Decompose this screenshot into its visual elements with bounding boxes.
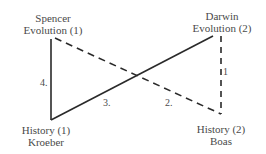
node-kroeber-name: Kroeber (16, 136, 76, 148)
node-kroeber: History (1) Kroeber (16, 124, 76, 148)
edge-label-3: 3. (103, 98, 111, 108)
node-spencer-type: Evolution (1) (23, 24, 83, 36)
edge-label-4: 4. (40, 78, 48, 88)
node-darwin: Darwin Evolution (2) (188, 10, 256, 34)
node-darwin-type: Evolution (2) (188, 22, 256, 34)
edge-2-dashed (55, 38, 221, 114)
edge-3-solid (51, 36, 213, 120)
node-spencer: Spencer Evolution (1) (23, 12, 83, 36)
edge-label-2: 2. (165, 98, 173, 108)
node-spencer-name: Spencer (23, 12, 83, 24)
node-boas-type: History (2) (187, 123, 255, 135)
node-boas: History (2) Boas (187, 123, 255, 147)
node-kroeber-type: History (1) (16, 124, 76, 136)
edge-label-1: 1 (223, 67, 228, 77)
node-darwin-name: Darwin (188, 10, 256, 22)
node-boas-name: Boas (187, 135, 255, 147)
